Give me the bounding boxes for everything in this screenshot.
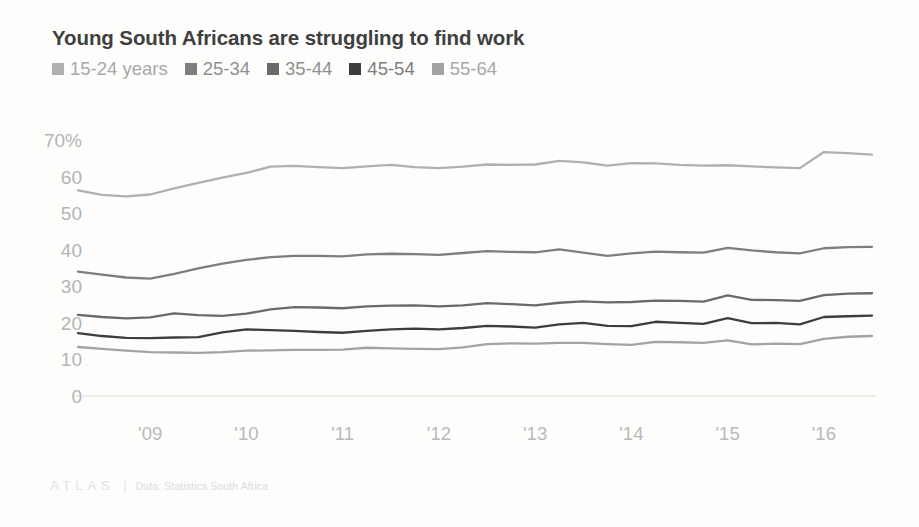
source-attribution: Data: Statistics South Africa [136, 480, 268, 492]
x-axis-tick-label: '09 [138, 425, 162, 444]
x-axis-tick-label: '16 [812, 425, 836, 444]
footer-divider: | [123, 478, 126, 493]
y-axis-tick-label: 70% [44, 131, 82, 150]
y-axis-tick-label: 60 [61, 168, 82, 187]
series-line-55-64 [78, 336, 872, 353]
series-line-25-34 [78, 247, 872, 279]
x-axis: '09'10'11'12'13'14'15'16 [0, 425, 919, 455]
y-axis-tick-label: 30 [61, 277, 82, 296]
series-line-15-24-years [78, 152, 872, 196]
x-axis-tick-label: '14 [619, 425, 643, 444]
y-axis-tick-label: 20 [61, 314, 82, 333]
x-axis-tick-label: '12 [427, 425, 451, 444]
x-axis-tick-label: '13 [523, 425, 547, 444]
y-axis-tick-label: 40 [61, 241, 82, 260]
y-axis-tick-label: 10 [61, 350, 82, 369]
chart-footer: ATLAS | Data: Statistics South Africa [50, 478, 268, 493]
y-axis-tick-label: 50 [61, 204, 82, 223]
chart-figure: Young South Africans are struggling to f… [0, 0, 919, 527]
atlas-logo: ATLAS [50, 478, 114, 493]
series-line-45-54 [78, 316, 872, 339]
y-axis-tick-label: 0 [71, 387, 82, 406]
x-axis-tick-label: '11 [331, 425, 354, 444]
x-axis-tick-label: '15 [716, 425, 740, 444]
x-axis-tick-label: '10 [234, 425, 258, 444]
series-line-35-44 [78, 293, 872, 318]
